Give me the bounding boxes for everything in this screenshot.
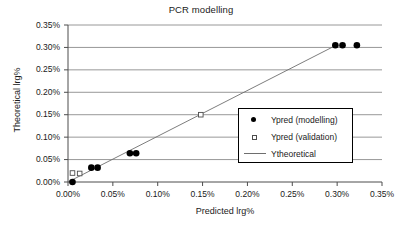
line-swatch-icon xyxy=(239,145,271,162)
legend-label: Ypred (validation) xyxy=(271,132,337,142)
y-tick-label: 0.20% xyxy=(20,87,60,97)
y-tick-label: 0.25% xyxy=(20,64,60,74)
chart-container: PCR modelling Theoretical lrg% Predicted… xyxy=(0,0,402,225)
x-tick-label: 0.35% xyxy=(359,189,402,199)
x-tick-label: 0.15% xyxy=(180,189,226,199)
legend-item-ytheoretical: Ytheoretical xyxy=(239,145,352,162)
x-tick-label: 0.10% xyxy=(135,189,181,199)
y-tick-label: 0.15% xyxy=(20,109,60,119)
open-square-icon xyxy=(239,128,271,145)
x-tick-label: 0.00% xyxy=(45,189,91,199)
x-tick-label: 0.20% xyxy=(224,189,270,199)
y-tick-label: 0.05% xyxy=(20,154,60,164)
legend-item-ypred-validation: Ypred (validation) xyxy=(239,128,352,145)
y-tick-label: 0.00% xyxy=(20,177,60,187)
x-tick-label: 0.25% xyxy=(269,189,315,199)
legend-label: Ytheoretical xyxy=(271,149,316,159)
y-tick-label: 0.30% xyxy=(20,42,60,52)
legend-item-ypred-modelling: Ypred (modelling) xyxy=(239,111,352,128)
y-tick-label: 0.35% xyxy=(20,20,60,30)
filled-circle-icon xyxy=(239,111,271,128)
legend-label: Ypred (modelling) xyxy=(271,115,337,125)
chart-legend: Ypred (modelling) Ypred (validation) Yth… xyxy=(238,108,353,163)
x-tick-label: 0.30% xyxy=(314,189,360,199)
y-tick-label: 0.10% xyxy=(20,132,60,142)
x-tick-label: 0.05% xyxy=(90,189,136,199)
